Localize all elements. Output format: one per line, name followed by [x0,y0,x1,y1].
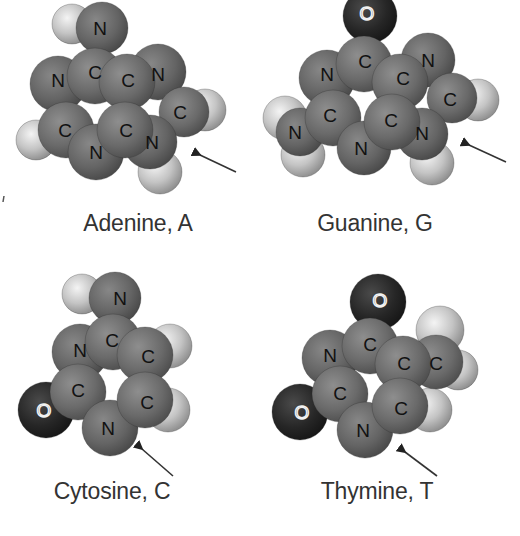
atom-label-c: C [119,120,133,141]
stray-mark [3,196,4,202]
atom-label-c: C [358,51,372,72]
atom-label-n: N [288,122,302,143]
atom-label-n: N [323,345,337,366]
atom-label-n: N [51,70,65,91]
atom-label-n: N [421,50,435,71]
atom-label-c: C [323,105,337,126]
atom-label-c: C [396,68,410,89]
caption-cytosine: Cytosine, C [54,478,171,505]
molecule-models: NCNCNCCCNNOCNCNCCCNNNNCNCCCNOOCNCCCCNO [0,0,520,536]
atom-label-n: N [73,340,87,361]
atom-label-n: N [93,18,107,39]
atom-label-c: C [333,383,347,404]
atom-label-c: C [429,353,443,374]
molecule-adenine: NCNCNCCCNN [16,2,236,194]
atom-label-n: N [354,138,368,159]
caption-thymine: Thymine, T [321,478,434,505]
atom-label-n: N [320,64,334,85]
atom-label-o: O [295,402,310,423]
molecule-cytosine: NCNCCCNO [18,272,192,476]
atom-label-c: C [384,110,398,131]
caption-adenine: Adenine, A [83,210,192,237]
atom-label-c: C [394,398,408,419]
molecule-thymine: OCNCCCCNO [272,274,478,476]
atom-label-c: C [173,102,187,123]
pointer-arrow-icon [405,452,437,476]
atom-label-c: C [121,70,135,91]
atom-label-o: O [37,400,52,421]
atom-label-n: N [101,418,115,439]
atom-label-c: C [58,120,72,141]
pointer-arrow-icon [142,449,173,476]
pointer-arrow-icon [200,155,236,172]
atom-label-c: C [140,392,154,413]
caption-guanine: Guanine, G [317,210,433,237]
atom-label-n: N [356,420,370,441]
atom-label-n: N [151,64,165,85]
atom-label-o: O [360,3,375,24]
atom-label-c: C [71,380,85,401]
molecule-guanine: OCNCNCCCNNN [263,0,506,185]
atom-label-o: O [373,290,388,311]
atom-label-c: C [443,89,457,110]
nucleobase-figure: NCNCNCCCNNOCNCNCCCNNNNCNCCCNOOCNCCCCNO A… [0,0,520,536]
atom-label-c: C [88,62,102,83]
atom-label-c: C [105,330,119,351]
atom-label-n: N [415,123,429,144]
pointer-arrow-icon [469,145,506,162]
atom-label-n: N [89,142,103,163]
atom-label-c: C [141,346,155,367]
atom-label-n: N [113,288,127,309]
atom-label-c: C [363,334,377,355]
atom-label-c: C [397,353,411,374]
atom-label-n: N [145,132,159,153]
